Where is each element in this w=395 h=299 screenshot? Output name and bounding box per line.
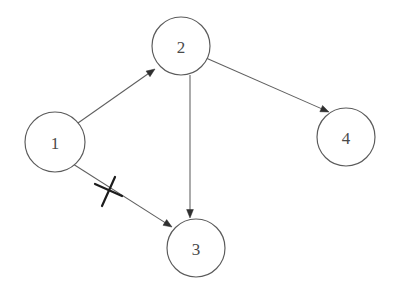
edge-2-to-3-arrowhead (187, 210, 194, 219)
graph-svg: 1 2 3 4 (0, 0, 395, 299)
node-1[interactable]: 1 (25, 112, 85, 172)
node-1-label: 1 (51, 134, 60, 153)
edge-1-to-2[interactable] (78, 69, 155, 123)
diagram-canvas: 1 2 3 4 (0, 0, 395, 299)
node-4-label: 4 (342, 129, 351, 148)
edge-2-to-3[interactable] (187, 75, 194, 218)
nodes-layer: 1 2 3 4 (25, 17, 375, 277)
edge-2-to-4[interactable] (206, 58, 329, 112)
edge-1-to-3-arrowhead (163, 220, 172, 227)
blocked-edge-cross-icon (95, 177, 122, 206)
node-3[interactable]: 3 (167, 219, 225, 277)
node-2-label: 2 (177, 38, 186, 57)
node-2[interactable]: 2 (152, 17, 210, 75)
edges-layer (73, 58, 329, 227)
edge-2-to-4-line (206, 58, 325, 110)
edge-2-to-4-arrowhead (320, 105, 329, 112)
node-3-label: 3 (192, 240, 201, 259)
edge-1-to-2-arrowhead (146, 69, 155, 77)
node-4[interactable]: 4 (317, 108, 375, 166)
edge-1-to-2-line (78, 71, 152, 123)
